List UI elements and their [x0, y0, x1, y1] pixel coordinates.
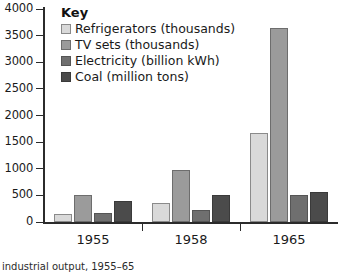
bar	[114, 201, 132, 222]
legend-entry: Coal (million tons)	[61, 69, 235, 85]
bar	[270, 28, 288, 222]
x-axis-tick-label: 1958	[142, 233, 240, 247]
bar	[212, 195, 230, 222]
y-axis-tick	[36, 222, 43, 223]
bar	[74, 195, 92, 222]
x-axis-tick	[142, 224, 143, 231]
legend: Key Refrigerators (thousands)TV sets (th…	[61, 5, 235, 85]
y-axis-tick	[36, 115, 43, 116]
legend-swatch-icon	[61, 72, 71, 82]
bar	[54, 214, 72, 222]
y-axis-tick-label: 1000	[5, 163, 33, 175]
legend-title: Key	[61, 5, 235, 20]
legend-entry-label: Refrigerators (thousands)	[75, 22, 235, 36]
y-axis-tick-label: 3000	[5, 56, 33, 68]
x-axis-line	[43, 222, 338, 224]
y-axis-tick-label: 0	[26, 216, 33, 228]
bar	[94, 213, 112, 222]
x-axis-tick-label: 1965	[240, 233, 338, 247]
y-axis-tick-label: 1500	[5, 136, 33, 148]
x-axis-tick-label: 1955	[44, 233, 142, 247]
figure-caption: industrial output, 1955–65	[2, 261, 134, 272]
y-axis-tick	[36, 195, 43, 196]
bar	[192, 210, 210, 223]
y-axis-tick-label: 3500	[5, 30, 33, 42]
legend-entry: TV sets (thousands)	[61, 37, 235, 53]
legend-entry: Refrigerators (thousands)	[61, 21, 235, 37]
legend-entry: Electricity (billion kWh)	[61, 53, 235, 69]
y-axis-tick	[36, 168, 43, 169]
legend-entry-label: TV sets (thousands)	[75, 38, 199, 52]
y-axis-tick	[36, 142, 43, 143]
y-axis-tick	[36, 88, 43, 89]
bar	[290, 195, 308, 222]
y-axis-tick-label: 4000	[5, 3, 33, 15]
legend-swatch-icon	[61, 24, 71, 34]
bar	[310, 192, 328, 222]
y-axis-tick	[36, 9, 43, 10]
y-axis-tick-label: 2500	[5, 83, 33, 95]
y-axis-tick-label: 2000	[5, 110, 33, 122]
y-axis-tick	[36, 35, 43, 36]
y-axis-tick	[36, 62, 43, 63]
y-axis-tick-label: 500	[12, 189, 33, 201]
x-axis-tick	[240, 224, 241, 231]
legend-swatch-icon	[61, 56, 71, 66]
bar	[250, 133, 268, 222]
bar	[152, 203, 170, 222]
legend-entry-label: Electricity (billion kWh)	[75, 54, 220, 68]
legend-entries: Refrigerators (thousands)TV sets (thousa…	[61, 21, 235, 85]
legend-swatch-icon	[61, 40, 71, 50]
legend-entry-label: Coal (million tons)	[75, 70, 189, 84]
bar	[172, 170, 190, 222]
